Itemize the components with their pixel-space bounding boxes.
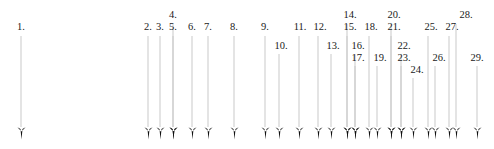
arrow-leader-line [21,36,22,127]
arrow-label: 29. [470,52,483,63]
arrow-leader-line [234,36,235,127]
arrow-leader-line [208,36,209,127]
arrow-annotation-figure: 1.2.3.4.5.6.7.8.9.10.11.12.13.14.15.16.1… [0,0,494,149]
arrow-leader-line [449,36,450,127]
arrow-leader-line [148,36,149,127]
arrow-label: 19. [373,52,386,63]
arrow-leader-line [173,36,174,127]
arrow-leader-line [391,36,392,127]
arrow-label: 13. [326,40,339,51]
arrow-label: 14. [343,9,356,20]
arrow-label: 24. [410,64,423,75]
arrow-label: 28. [459,9,472,20]
arrow-label: 1. [17,21,25,32]
arrow-label: 11. [294,21,307,32]
arrow-label: 8. [230,21,238,32]
arrow-leader-line [318,36,319,127]
arrow-label: 25. [424,21,437,32]
arrow-leader-line [160,36,161,127]
arrow-leader-line [428,36,429,127]
arrow-label: 6. [188,21,196,32]
arrow-leader-line [279,54,280,127]
arrow-leader-line [347,36,348,127]
arrow-leader-line [331,54,332,127]
arrow-label: 26. [432,52,445,63]
arrow-label: 18. [364,21,377,32]
arrow-leader-line [401,66,402,127]
arrow-label: 4. [169,9,177,20]
arrow-label: 21. [387,21,400,32]
arrow-leader-line [413,78,414,127]
arrow-leader-line [265,36,266,127]
arrow-label: 2. [144,21,152,32]
arrow-label: 10. [274,40,287,51]
arrow-leader-line [369,36,370,127]
arrow-label: 15. [343,21,356,32]
arrow-leader-line [299,36,300,127]
arrow-leader-line [435,66,436,127]
arrow-leader-line [192,36,193,127]
arrow-label: 12. [313,21,326,32]
arrow-label: 20. [387,9,400,20]
arrow-label: 5. [169,21,177,32]
arrow-leader-line [477,66,478,127]
arrow-label: 16. [351,40,364,51]
arrow-label: 23. [397,52,410,63]
arrow-leader-line [377,66,378,127]
arrow-leader-line [456,24,457,127]
arrow-label: 27. [445,21,458,32]
arrow-label: 7. [204,21,212,32]
arrow-label: 17. [351,52,364,63]
arrow-label: 3. [156,21,164,32]
arrow-label: 9. [261,21,269,32]
arrow-label: 22. [397,40,410,51]
arrow-leader-line [355,66,356,127]
